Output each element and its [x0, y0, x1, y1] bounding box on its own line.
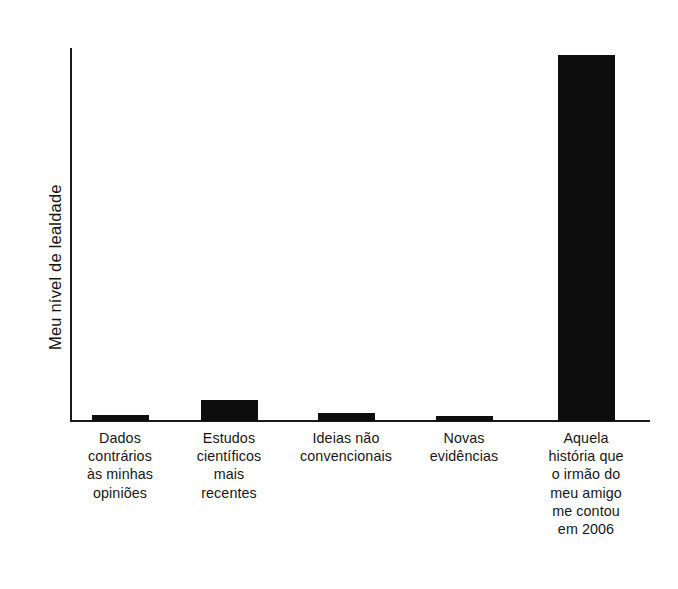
x-axis-tick-label-line: Novas [399, 429, 529, 447]
bar [436, 416, 493, 421]
y-axis-title: Meu nível de lealdade [44, 50, 66, 350]
bar-slot [436, 48, 493, 421]
x-axis-tick-label-line: história que [516, 447, 656, 465]
x-axis-tick-label-line: em 2006 [516, 520, 656, 538]
plot-area [70, 48, 650, 421]
x-axis-tick-label-line: mais [164, 465, 294, 483]
bar [318, 413, 375, 421]
x-axis-tick-label: Novasevidências [399, 429, 529, 465]
x-axis-tick-label-line: o irmão do [516, 465, 656, 483]
x-axis-tick-label-line: recentes [164, 484, 294, 502]
x-axis-tick-label-line: Aquela [516, 429, 656, 447]
x-axis-tick-label-line: meu amigo [516, 484, 656, 502]
bar [92, 415, 149, 421]
x-axis-tick-label-line: evidências [399, 447, 529, 465]
bar-slot [558, 48, 615, 421]
bar-slot [318, 48, 375, 421]
x-axis-tick-label-line: me contou [516, 502, 656, 520]
bar [201, 400, 258, 421]
bar-chart-figure: Meu nível de lealdade Dadoscontráriosàs … [0, 0, 678, 589]
bar-slot [201, 48, 258, 421]
bar [558, 55, 615, 421]
x-axis-tick-label: Aquelahistória queo irmão domeu amigome … [516, 429, 656, 538]
bar-slot [92, 48, 149, 421]
